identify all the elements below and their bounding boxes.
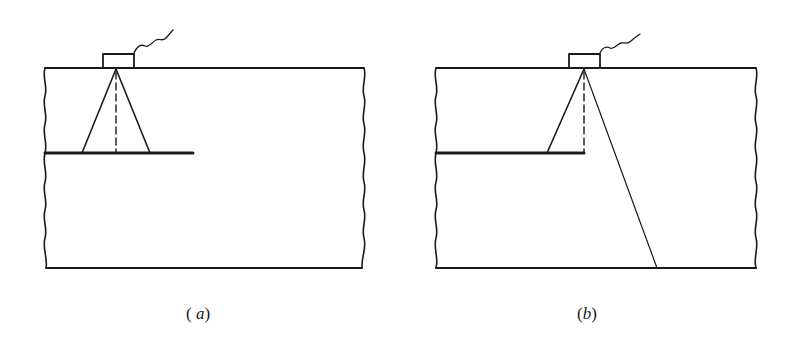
beam-left-ray <box>82 69 116 153</box>
beam-long-ray <box>584 69 657 268</box>
panel-a <box>44 30 365 268</box>
transducer-cable <box>600 34 640 53</box>
transducer <box>103 54 134 68</box>
caption-a: ( a) <box>186 304 210 324</box>
caption-paren-close: ) <box>204 304 210 323</box>
break-line-right <box>362 68 365 268</box>
transducer-cable <box>134 30 173 53</box>
diagram-canvas <box>0 0 792 347</box>
break-line-right <box>755 68 757 268</box>
caption-paren-open: ( <box>186 304 196 323</box>
beam-right-ray <box>116 69 150 153</box>
transducer <box>569 54 600 68</box>
beam-left-ray <box>547 69 584 153</box>
caption-paren-close: ) <box>591 304 597 323</box>
caption-b: (b) <box>577 304 597 324</box>
panel-b <box>435 34 757 268</box>
break-line-left <box>44 68 46 268</box>
caption-letter: b <box>583 304 592 323</box>
break-line-left <box>435 68 437 268</box>
